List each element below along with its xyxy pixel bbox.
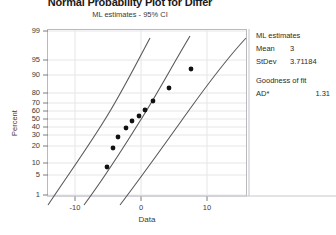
legend-key-stdev: StDev [256,57,290,66]
x-tick-label-0: 0 [126,203,156,212]
legend-key-ad: AD* [256,89,290,98]
x-tick-label-neg10: -10 [60,203,90,212]
legend-goodness-of-fit-heading: Goodness of fit [256,76,336,85]
data-point [130,119,135,124]
data-point [124,126,129,131]
normal-probability-plot: Normal Probability Plot for Differ ML es… [0,0,336,235]
legend-value-stdev: 3.71184 [290,57,332,66]
data-point [167,86,172,91]
data-point [116,135,121,140]
data-point [189,67,194,72]
y-tick-label-30: 30 [18,130,40,139]
data-point [151,99,156,104]
y-tick-label-10: 10 [18,158,40,167]
legend-value-mean: 3 [290,44,332,53]
legend-row-ad: AD* 1.31 [256,89,336,98]
x-tick-marks [75,196,207,201]
plot-frame [48,30,247,197]
y-tick-label-20: 20 [18,141,40,150]
y-axis-label: Percent [10,110,19,136]
data-point [143,108,148,113]
legend-row-mean: Mean 3 [256,44,336,53]
legend-ml-estimates-heading: ML estimates [256,31,336,40]
data-point [111,146,116,151]
x-tick-label-10: 10 [192,203,222,212]
legend-row-stdev: StDev 3.71184 [256,57,336,66]
data-point [105,165,110,170]
legend-key-mean: Mean [256,44,290,53]
legend-panel: ML estimates Mean 3 StDev 3.71184 Goodne… [256,31,336,102]
x-axis-label: Data [42,215,252,224]
y-tick-label-95: 95 [18,55,40,64]
y-tick-label-99: 99 [18,26,40,35]
y-tick-label-1: 1 [18,190,40,199]
legend-value-ad: 1.31 [290,89,330,98]
y-tick-label-5: 5 [18,170,40,179]
data-point [137,114,142,119]
y-tick-label-90: 90 [18,70,40,79]
legend-spacer [256,69,336,76]
y-tick-label-80: 80 [18,88,40,97]
